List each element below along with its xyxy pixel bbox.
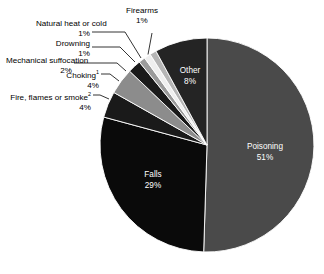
slice-label-falls-pct: 29% [145, 181, 161, 190]
leader-line-choking [110, 74, 119, 81]
callout-firearms: Firearms 1% [126, 6, 158, 26]
callout-natural-heat-or-cold: Natural heat or cold 1% [36, 19, 90, 39]
callout-natural-heat-or-cold-pct: 1% [36, 29, 90, 39]
callout-natural-heat-or-cold-name: Natural heat or cold [36, 19, 107, 28]
callout-choking-pct: 4% [50, 81, 99, 91]
leader-line-drowning [120, 47, 135, 62]
leader-line-mechanical-suffocation [117, 63, 126, 71]
callout-firearms-name: Firearms [126, 6, 158, 15]
leader-line-firearms [148, 33, 152, 55]
callout-fire-flames-smoke-footnote-marker: 2 [88, 91, 91, 97]
callout-fire-flames-smoke-name: Fire, flames or smoke [10, 93, 88, 102]
callout-choking-name: Choking [66, 71, 96, 80]
callout-fire-flames-smoke-pct: 4% [10, 103, 91, 113]
callout-choking: Choking1 4% [50, 71, 99, 91]
slice-label-falls-name: Falls [144, 170, 161, 179]
callout-mechanical-suffocation-name: Mechanical suffocation [6, 56, 88, 65]
callout-fire-flames-smoke: Fire, flames or smoke2 4% [10, 93, 91, 113]
slice-label-poisoning-name: Poisoning [247, 142, 283, 151]
slice-label-poisoning-pct: 51% [257, 153, 273, 162]
slice-label-other-name: Other [180, 66, 201, 75]
slice-label-other-pct: 8% [184, 77, 196, 86]
pie-chart-figure: Poisoning 51% Falls 29% Other 8% Firearm… [0, 0, 324, 274]
leader-line-fire-flames-smoke [100, 95, 109, 99]
callout-choking-footnote-marker: 1 [96, 69, 99, 75]
callout-firearms-pct: 1% [126, 16, 158, 26]
callout-drowning-name: Drowning [56, 39, 90, 48]
